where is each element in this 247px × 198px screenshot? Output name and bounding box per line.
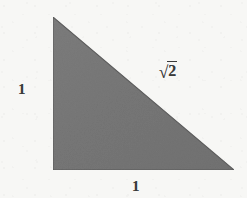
radical-sign-icon: √	[159, 63, 167, 82]
triangle-polygon	[53, 17, 234, 170]
triangle-figure: 1 1 √2	[0, 0, 247, 198]
label-vertical-leg: 1	[18, 82, 26, 97]
radical-expression: √2	[159, 62, 177, 80]
radicand-value: 2	[167, 61, 177, 79]
triangle-shape	[0, 0, 247, 198]
label-hypotenuse: √2	[159, 62, 177, 80]
label-horizontal-leg: 1	[132, 179, 140, 194]
